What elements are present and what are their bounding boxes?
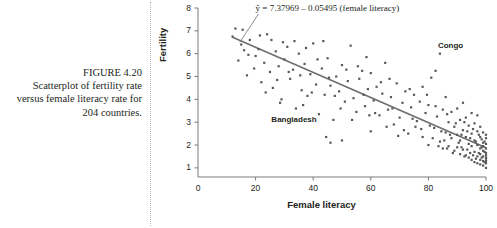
y-axis-tick-label: 7 bbox=[177, 25, 191, 35]
y-axis-tick-label: 3 bbox=[177, 117, 191, 127]
y-axis-tick-label: 1 bbox=[177, 162, 191, 172]
figure-caption: FIGURE 4.20 Scatterplot of fertility rat… bbox=[8, 66, 142, 119]
point-annotation-bangladesh: Bangladesh bbox=[271, 115, 316, 124]
x-axis-tick-label: 80 bbox=[417, 183, 439, 193]
scatterplot: Fertility Female literacy 12345678020406… bbox=[150, 0, 493, 228]
x-axis-tick-label: 20 bbox=[245, 183, 267, 193]
caption-line-1: Scatterplot of fertility rate bbox=[33, 80, 142, 91]
x-axis-tick-label: 60 bbox=[360, 183, 382, 193]
y-axis-tick-label: 4 bbox=[177, 94, 191, 104]
x-axis-tick-label: 100 bbox=[475, 183, 497, 193]
x-axis-title: Female literacy bbox=[150, 199, 493, 210]
x-axis-tick-label: 40 bbox=[302, 183, 324, 193]
x-axis-tick-label: 0 bbox=[187, 183, 209, 193]
y-axis-tick-label: 5 bbox=[177, 71, 191, 81]
y-axis-title: Fertility bbox=[157, 28, 168, 62]
regression-equation: ŷ = 7.37969 – 0.05495 (female literacy) bbox=[256, 3, 400, 13]
point-annotation-congo: Congo bbox=[438, 41, 463, 50]
y-axis-tick-label: 6 bbox=[177, 48, 191, 58]
y-axis-tick-label: 2 bbox=[177, 140, 191, 150]
figure-number: FIGURE 4.20 bbox=[8, 66, 142, 79]
y-axis-tick-label: 8 bbox=[177, 3, 191, 13]
caption-line-2: versus female literacy rate bbox=[17, 93, 127, 104]
plot-canvas bbox=[150, 0, 493, 228]
